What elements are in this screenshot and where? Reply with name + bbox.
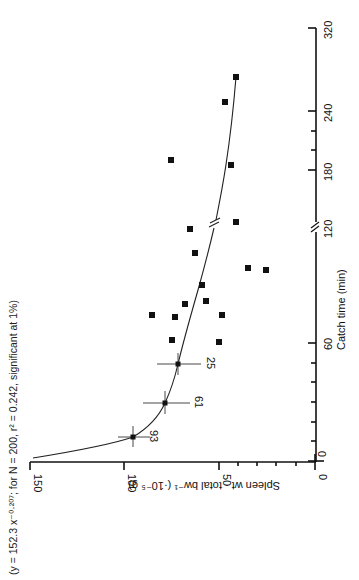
svg-text:0: 0 bbox=[316, 451, 328, 457]
time-axis-title: Catch time (min) bbox=[335, 269, 347, 350]
data-points bbox=[149, 74, 269, 345]
value-axis bbox=[30, 454, 316, 470]
svg-text:61: 61 bbox=[193, 396, 205, 408]
svg-text:60: 60 bbox=[322, 338, 334, 350]
curve-break bbox=[209, 218, 220, 227]
svg-text:240: 240 bbox=[322, 104, 334, 122]
svg-text:320: 320 bbox=[322, 21, 334, 39]
svg-text:180: 180 bbox=[322, 163, 334, 181]
svg-text:25: 25 bbox=[205, 357, 217, 369]
scatter-chart: (y = 152.3 x⁻⁰·²⁰⁷; for N = 200, r² = 0.… bbox=[0, 0, 359, 580]
svg-text:120: 120 bbox=[322, 220, 334, 238]
group-n-labels: 93 61 25 bbox=[148, 357, 217, 442]
svg-text:93: 93 bbox=[148, 430, 160, 442]
svg-text:150: 150 bbox=[32, 474, 44, 492]
value-axis-title: Spleen wt · total bw⁻¹ (·10⁻⁵ g) bbox=[128, 480, 280, 492]
time-axis-labels: 0 60 120 180 240 320 bbox=[316, 21, 334, 457]
chart-caption: (y = 152.3 x⁻⁰·²⁰⁷; for N = 200, r² = 0.… bbox=[7, 300, 19, 575]
time-axis bbox=[308, 28, 324, 462]
svg-text:0: 0 bbox=[317, 474, 329, 480]
